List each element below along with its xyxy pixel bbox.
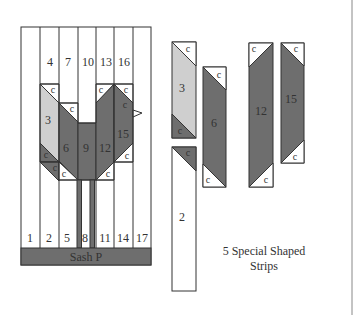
label-10: 10 (82, 55, 94, 69)
label-6: 6 (63, 141, 69, 155)
strip-label-6: 6 (211, 116, 217, 130)
strip-label-15: 15 (285, 92, 297, 106)
label-3: 3 (45, 113, 51, 127)
c-label: c (123, 99, 128, 110)
label-2: 2 (46, 231, 52, 245)
stem-right (90, 180, 95, 248)
c-label: c (206, 174, 211, 185)
quilt-diagram: 4 7 10 13 16 3 6 9 12 15 1 2 5 8 11 14 1… (0, 0, 360, 315)
label-8: 8 (82, 231, 88, 245)
caption-line1: 5 Special Shaped (223, 244, 306, 258)
label-7: 7 (65, 55, 71, 69)
c-label: c (186, 147, 191, 158)
c-label: c (186, 43, 191, 54)
c-label: c (294, 43, 299, 54)
c-label: c (252, 43, 257, 54)
label-1: 1 (27, 231, 33, 245)
label-16: 16 (118, 55, 130, 69)
label-12: 12 (99, 141, 111, 155)
strip-label-2: 2 (179, 210, 185, 224)
c-label: c (178, 125, 183, 136)
label-17: 17 (136, 231, 148, 245)
strip-label-3: 3 (179, 81, 185, 95)
label-13: 13 (100, 55, 112, 69)
c-label: c (124, 84, 129, 95)
stem-left (77, 180, 82, 248)
c-label: c (99, 84, 104, 95)
c-label: c (125, 150, 130, 161)
c-label: c (217, 69, 222, 80)
label-4: 4 (47, 55, 53, 69)
strip-label-12: 12 (255, 104, 267, 118)
label-9: 9 (83, 141, 89, 155)
c-label: c (293, 151, 298, 162)
label-5: 5 (64, 231, 70, 245)
c-label: c (44, 149, 49, 160)
c-label: c (70, 103, 75, 114)
c-label: c (62, 168, 67, 179)
sash-p-label: Sash P (70, 250, 103, 264)
c-label: c (106, 168, 111, 179)
c-label: c (53, 162, 58, 173)
label-14: 14 (117, 231, 129, 245)
caption-line2: Strips (250, 259, 278, 273)
label-15: 15 (117, 127, 129, 141)
label-11: 11 (99, 231, 111, 245)
c-label: c (51, 84, 56, 95)
c-label: c (264, 174, 269, 185)
